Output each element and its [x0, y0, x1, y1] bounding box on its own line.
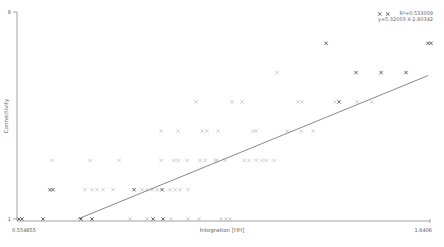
data-point-x-marker — [83, 188, 86, 191]
data-point-x-marker — [90, 188, 93, 191]
data-point-x-marker — [185, 159, 188, 162]
data-point-x-marker — [275, 71, 278, 74]
data-point-x-marker — [194, 100, 197, 103]
data-point-x-marker — [88, 159, 91, 162]
data-point-x-marker — [379, 71, 382, 74]
data-point-x-marker — [254, 129, 257, 132]
data-point-x-marker — [311, 129, 314, 132]
x-tick-label-left: 0.554855 — [12, 227, 36, 233]
data-point-x-marker — [90, 217, 93, 220]
data-point-x-marker — [151, 217, 154, 220]
data-point-x-marker — [333, 100, 336, 103]
y-tick-label-top: 8 — [8, 9, 11, 15]
data-point-x-marker — [172, 159, 175, 162]
data-point-x-marker — [299, 129, 302, 132]
data-point-x-marker — [404, 71, 407, 74]
data-point-x-marker — [264, 159, 267, 162]
data-point-x-marker — [300, 100, 303, 103]
regression-equation: y=5.32003 X-2.80342 — [378, 16, 433, 23]
data-point-x-marker — [111, 188, 114, 191]
regression-line — [78, 76, 428, 219]
data-point-x-marker — [159, 129, 162, 132]
points-layer — [17, 12, 432, 220]
data-point-x-marker — [101, 188, 104, 191]
data-point-x-marker — [296, 100, 299, 103]
data-point-x-marker — [178, 188, 181, 191]
data-point-x-marker — [168, 188, 171, 191]
x-tick-label-right: 1.6406 — [415, 227, 433, 233]
data-point-x-marker — [159, 159, 162, 162]
data-point-x-marker — [173, 188, 176, 191]
scatter-chart: 8 1 0.554855 1.6406 Integration [HH] Con… — [0, 0, 444, 247]
data-point-x-marker — [20, 217, 23, 220]
y-axis-title: Connectivity — [3, 98, 10, 133]
data-point-x-marker — [219, 217, 222, 220]
data-point-x-marker — [272, 159, 275, 162]
data-point-x-marker — [145, 217, 148, 220]
data-point-x-marker — [50, 159, 53, 162]
data-point-x-marker — [324, 42, 327, 45]
data-point-x-marker — [132, 188, 135, 191]
data-point-x-marker — [354, 71, 357, 74]
data-point-x-marker — [160, 188, 163, 191]
data-point-x-marker — [254, 159, 257, 162]
data-point-x-marker — [161, 217, 164, 220]
data-point-x-marker — [260, 159, 263, 162]
data-point-x-marker — [169, 217, 172, 220]
data-point-x-marker — [176, 159, 179, 162]
data-point-x-marker — [203, 159, 206, 162]
data-point-x-marker — [128, 217, 131, 220]
data-point-x-marker — [247, 159, 250, 162]
data-point-x-marker — [370, 100, 373, 103]
data-point-x-marker — [186, 188, 189, 191]
data-point-x-marker — [355, 100, 358, 103]
data-point-x-marker — [205, 129, 208, 132]
x-axis-title: Integration [HH] — [200, 227, 245, 234]
data-point-x-marker — [242, 159, 245, 162]
y-tick-label-bottom: 1 — [8, 216, 11, 222]
data-point-x-marker — [429, 42, 432, 45]
data-point-x-marker — [230, 100, 233, 103]
data-point-x-marker — [200, 129, 203, 132]
data-point-x-marker — [197, 217, 200, 220]
data-point-x-marker — [117, 159, 120, 162]
data-point-x-marker — [224, 217, 227, 220]
data-point-x-marker — [216, 129, 219, 132]
data-point-x-marker — [140, 188, 143, 191]
data-point-x-marker — [228, 217, 231, 220]
data-point-x-marker — [285, 129, 288, 132]
data-point-x-marker — [337, 100, 340, 103]
data-point-x-marker — [240, 100, 243, 103]
data-point-x-marker — [186, 217, 189, 220]
data-point-x-marker — [176, 129, 179, 132]
data-point-x-marker — [41, 217, 44, 220]
data-point-x-marker — [198, 159, 201, 162]
data-point-x-marker — [155, 188, 158, 191]
data-point-x-marker — [51, 188, 54, 191]
data-point-x-marker — [95, 188, 98, 191]
